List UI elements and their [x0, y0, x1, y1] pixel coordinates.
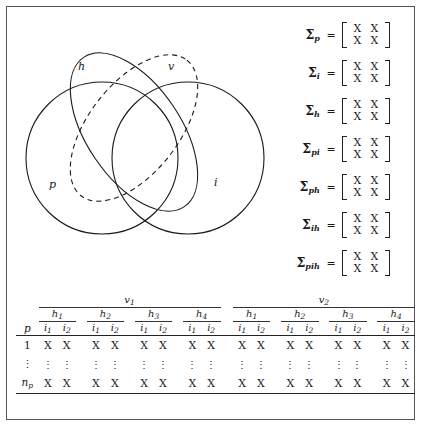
- v-group-label: v2: [233, 294, 415, 307]
- table-cell: X: [202, 335, 221, 355]
- h-group-label: h4: [377, 307, 415, 321]
- v-group-text: v2: [319, 294, 329, 305]
- h-group-text-subscript: 1: [58, 312, 63, 321]
- matrix-cell: X: [349, 225, 366, 237]
- table-cell: X: [233, 335, 252, 355]
- matrix-cell: X: [366, 149, 383, 161]
- column-gap: [221, 374, 233, 394]
- column-gap: [319, 374, 330, 394]
- sigma-subscript: ph: [308, 185, 320, 195]
- i-column-text-subscript: 1: [338, 326, 343, 335]
- column-gap: [124, 335, 135, 355]
- column-gap: [172, 321, 183, 335]
- i-column-label: i2: [252, 321, 271, 335]
- table-cell: X: [105, 374, 124, 394]
- column-gap: [270, 321, 281, 335]
- sigma-subscript: pi: [311, 147, 320, 157]
- column-gap: [270, 355, 281, 374]
- equals-sign: =: [320, 29, 342, 42]
- table-cell: X: [105, 335, 124, 355]
- table-cell: X: [377, 335, 396, 355]
- h-group-text: h1: [246, 308, 257, 319]
- sigma-equation-row: Σh=XXXX: [268, 94, 390, 128]
- i-column-label: i1: [329, 321, 348, 335]
- column-gap: [367, 355, 378, 374]
- h-group-text: h2: [294, 308, 305, 319]
- h-group-text: h4: [391, 308, 402, 319]
- column-gap: [367, 335, 378, 355]
- sigma-matrix: XXXX: [342, 98, 390, 123]
- table-row-label: ⋮: [16, 355, 39, 374]
- sigma-symbol: Σph: [268, 179, 320, 195]
- table-cell: ⋮: [57, 355, 76, 374]
- sigma-equation-row: Σih=XXXX: [268, 208, 390, 242]
- h-group-text-subscript: 4: [203, 312, 208, 321]
- matrix-cell: X: [366, 225, 383, 237]
- table-row: npXXXXXXXXXXXXXXXX: [16, 374, 415, 394]
- table-cell: X: [154, 335, 173, 355]
- matrix-row: XX: [349, 187, 383, 199]
- table-cell: X: [135, 374, 154, 394]
- i-column-label: i1: [135, 321, 154, 335]
- column-gap: [221, 294, 233, 307]
- table-cell: X: [281, 335, 300, 355]
- table-row-label: np: [16, 374, 39, 394]
- i-column-text: i2: [111, 322, 119, 333]
- column-gap: [76, 335, 87, 355]
- column-gap: [319, 307, 330, 321]
- table-cell: X: [300, 374, 319, 394]
- equals-sign: =: [320, 257, 342, 270]
- v-group-text: v1: [124, 294, 134, 305]
- column-gap: [319, 355, 330, 374]
- column-gap: [221, 335, 233, 355]
- column-gap: [76, 355, 87, 374]
- matrix-row: XX: [349, 149, 383, 161]
- column-gap: [367, 374, 378, 394]
- table-corner-blank: [16, 307, 39, 321]
- table-cell: X: [39, 335, 58, 355]
- matrix-cell: X: [349, 73, 366, 85]
- i-column-label: i1: [281, 321, 300, 335]
- h-group-label: h3: [329, 307, 367, 321]
- table-corner-blank: [16, 294, 39, 307]
- sigma-subscript: ih: [311, 223, 320, 233]
- column-gap: [172, 374, 183, 394]
- row-header-text: p: [24, 322, 31, 334]
- data-table-head: v1v2 h1h2h3h4h1h2h3h4 pi1i2i1i2i1i2i1i2i…: [16, 294, 415, 335]
- sigma-equation-row: Σpih=XXXX: [268, 246, 390, 280]
- i-column-label: i2: [300, 321, 319, 335]
- table-row-label-text: 1: [24, 339, 31, 351]
- i-column-text-subscript: 2: [308, 326, 313, 335]
- h-group-text: h3: [148, 308, 159, 319]
- sigma-symbol: Σh: [268, 103, 320, 119]
- column-gap: [367, 307, 378, 321]
- table-cell: X: [329, 335, 348, 355]
- table-row-label-text-subscript: p: [28, 381, 33, 390]
- h-group-label: h2: [87, 307, 125, 321]
- row-header-label: p: [16, 321, 39, 335]
- i-column-text-subscript: 1: [241, 326, 246, 335]
- i-column-label: i1: [183, 321, 202, 335]
- matrix-cell: X: [349, 149, 366, 161]
- sigma-glyph: Σ: [302, 141, 311, 156]
- table-cell: X: [252, 335, 271, 355]
- sigma-glyph: Σ: [305, 103, 314, 118]
- i-column-text-subscript: 1: [192, 326, 197, 335]
- matrix-row: XX: [349, 225, 383, 237]
- column-gap: [172, 355, 183, 374]
- h-group-label: h3: [135, 307, 173, 321]
- h-group-text: h3: [342, 308, 353, 319]
- sigma-equation-list: Σp=XXXXΣi=XXXXΣh=XXXXΣpi=XXXXΣph=XXXXΣih…: [268, 18, 420, 288]
- i-column-text: i2: [353, 322, 361, 333]
- i-column-text-subscript: 1: [95, 326, 100, 335]
- table-cell: ⋮: [105, 355, 124, 374]
- i-column-text: i2: [159, 322, 167, 333]
- i-column-text-subscript: 1: [143, 326, 148, 335]
- matrix-row: XX: [349, 73, 383, 85]
- h-group-text-subscript: 3: [154, 312, 159, 321]
- i-column-text: i1: [44, 322, 52, 333]
- h-group-text-subscript: 1: [252, 312, 257, 321]
- column-gap: [270, 307, 281, 321]
- h-group-text-subscript: 2: [301, 312, 306, 321]
- sigma-symbol: Σi: [268, 65, 320, 81]
